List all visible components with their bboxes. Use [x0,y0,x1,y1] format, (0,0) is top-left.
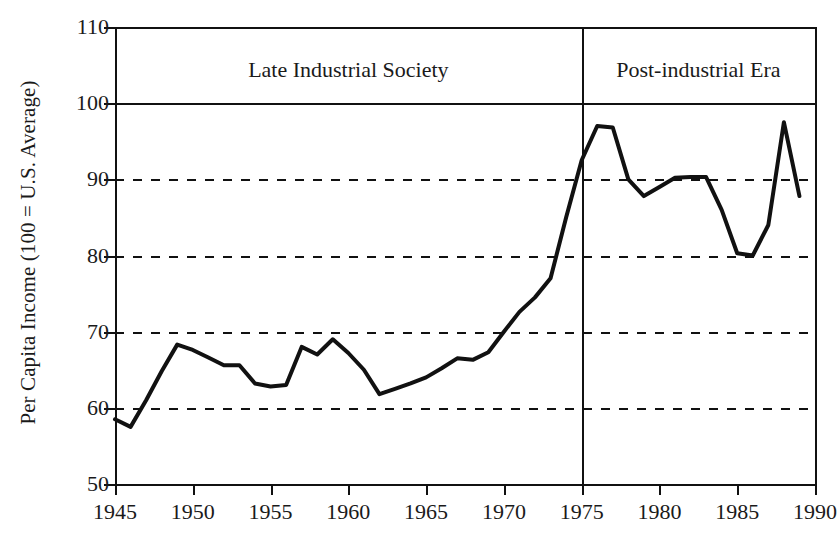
x-tick-label-1975: 1975 [560,499,604,525]
x-tick-label-1960: 1960 [326,499,370,525]
x-tick-label-1990: 1990 [793,499,837,525]
x-tick-label-1970: 1970 [482,499,526,525]
y-tick-label-90: 90 [87,166,109,192]
x-tick-label-1950: 1950 [171,499,215,525]
x-tick-label-1985: 1985 [715,499,759,525]
plot-area: 1101009080706050 19451950195519601965197… [115,27,817,485]
data-series-line [115,27,817,486]
x-tick-label-1955: 1955 [249,499,293,525]
y-tick-label-50: 50 [87,471,109,497]
y-tick-label-70: 70 [87,319,109,345]
x-tick-label-1965: 1965 [404,499,448,525]
y-tick-label-60: 60 [87,395,109,421]
y-tick-label-80: 80 [87,243,109,269]
x-tick-label-1945: 1945 [93,499,137,525]
chart-root: Per Capita Income (100 = U.S. Average) 1… [0,0,840,552]
y-tick-label-100: 100 [76,90,109,116]
y-tick-label-110: 110 [77,14,109,40]
y-axis-label: Per Capita Income (100 = U.S. Average) [16,13,41,493]
x-tick-label-1980: 1980 [637,499,681,525]
